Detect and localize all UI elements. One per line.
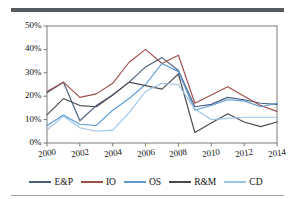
legend-entry-e-p[interactable]: E&P [29, 177, 72, 187]
legend-entry-r-m[interactable]: R&M [169, 177, 216, 187]
legend-color-swatch [124, 181, 146, 183]
axis-ticks [44, 26, 278, 147]
legend-label: CD [249, 177, 262, 187]
top-divider-rule [11, 8, 284, 12]
chart-figure: 0%10%20%30%40%50% 2000200220042006200820… [0, 0, 292, 199]
y-tick-label: 0% [12, 137, 42, 147]
legend-entry-cd[interactable]: CD [224, 177, 262, 187]
legend-color-swatch [169, 181, 191, 183]
series-line-r-m [47, 74, 277, 133]
legend-color-swatch [29, 181, 51, 183]
y-tick-label: 50% [12, 20, 42, 30]
bottom-divider-rule [11, 195, 284, 196]
y-tick-label: 30% [12, 67, 42, 77]
y-tick-label: 40% [12, 43, 42, 53]
series-line-io [47, 49, 277, 111]
series-line-os [47, 63, 277, 125]
legend-label: IO [106, 177, 116, 187]
line-chart-svg [0, 14, 292, 154]
plot-area: 0%10%20%30%40%50% 2000200220042006200820… [0, 14, 292, 154]
legend-entry-os[interactable]: OS [124, 177, 161, 187]
legend-label: R&M [194, 177, 216, 187]
legend-entry-io[interactable]: IO [81, 177, 116, 187]
y-tick-label: 10% [12, 114, 42, 124]
chart-legend: E&PIOOSR&MCD [0, 174, 292, 190]
legend-color-swatch [81, 181, 103, 183]
legend-label: OS [149, 177, 161, 187]
axes [47, 26, 277, 143]
y-tick-label: 20% [12, 90, 42, 100]
legend-label: E&P [54, 177, 72, 187]
plot-frame [47, 26, 277, 143]
legend-color-swatch [224, 181, 246, 183]
data-series-group [47, 49, 277, 132]
